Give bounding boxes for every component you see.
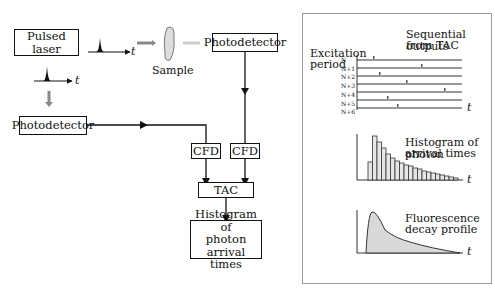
period-n1: N+1 (341, 65, 355, 74)
period-n5: N+5 (341, 100, 355, 109)
panel-histogram-line2: arrival times (405, 148, 476, 160)
photodetector-left-label: Photodetector (12, 119, 95, 132)
decay-line2: decay profile (405, 224, 477, 236)
time-label-decay: t (467, 246, 471, 258)
photodetector-left-box: Photodetector (19, 116, 87, 135)
cfd-right-label: CFD (232, 145, 258, 158)
period-n3: N+3 (341, 82, 355, 91)
time-label-seq: t (467, 102, 471, 114)
time-label-ref: t (75, 75, 79, 87)
photodetector-top-box: Photodetector (212, 33, 278, 52)
sample-icon (164, 27, 174, 60)
tac-label: TAC (214, 184, 238, 197)
reference-pulse-icon (34, 66, 72, 81)
period-n2: N+2 (341, 73, 355, 82)
period-labels: N N+1 N+2 N+3 N+4 N+5 N+6 (341, 56, 355, 117)
sample-label: Sample (152, 65, 194, 77)
cfd-left-box: CFD (191, 143, 221, 159)
period-n: N (341, 56, 355, 65)
period-n6: N+6 (341, 108, 355, 117)
histogram-line3: times (210, 258, 242, 271)
sequential-line2: from TAC (406, 40, 459, 52)
time-label-hist: t (467, 174, 471, 186)
cfd-right-box: CFD (230, 143, 260, 159)
histogram-box: Histogram of photon arrival times (190, 220, 262, 259)
laser-pulse-icon (88, 38, 130, 52)
period-n4: N+4 (341, 91, 355, 100)
cfd-left-label: CFD (193, 145, 219, 158)
histogram-line1: Histogram of (191, 208, 261, 233)
histogram-line2: photon arrival (191, 233, 261, 258)
tac-box: TAC (198, 182, 254, 198)
pulsed-laser-label: Pulsed laser (15, 30, 78, 55)
photodetector-top-label: Photodetector (204, 36, 287, 49)
pulsed-laser-box: Pulsed laser (14, 29, 79, 56)
time-label: t (131, 46, 135, 58)
